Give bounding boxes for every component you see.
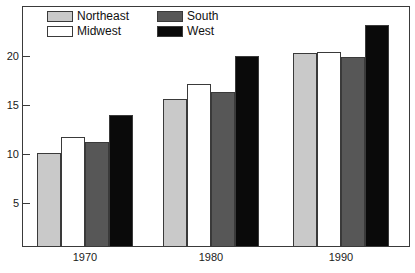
bar-1980-midwest — [187, 84, 211, 247]
bar-1990-west — [365, 25, 389, 247]
legend-label-west: West — [187, 25, 214, 37]
legend-swatch-west-icon — [157, 26, 183, 37]
legend-label-northeast: Northeast — [77, 10, 129, 22]
bar-1970-midwest — [61, 137, 85, 247]
legend-swatch-south-icon — [157, 11, 183, 22]
bar-1980-west — [235, 56, 259, 247]
x-tick-label-1970: 1970 — [55, 251, 115, 263]
legend-label-south: South — [187, 10, 218, 22]
bar-1970-south — [85, 142, 109, 247]
chart-legend: Northeast South Midwest West — [47, 10, 218, 37]
bar-1980-south — [211, 92, 235, 247]
x-tick-label-1980: 1980 — [181, 251, 241, 263]
bars-layer — [0, 0, 415, 273]
legend-swatch-northeast-icon — [47, 11, 73, 22]
bar-chart: 20 15 10 5 1970 1980 1990 — [0, 0, 415, 273]
legend-item-south: South — [157, 10, 218, 22]
legend-label-midwest: Midwest — [77, 25, 121, 37]
bar-1980-northeast — [163, 99, 187, 247]
legend-swatch-midwest-icon — [47, 26, 73, 37]
bar-1990-south — [341, 57, 365, 247]
bar-1990-midwest — [317, 52, 341, 247]
legend-item-northeast: Northeast — [47, 10, 129, 22]
legend-item-midwest: Midwest — [47, 25, 129, 37]
bar-1990-northeast — [293, 53, 317, 247]
bar-1970-northeast — [37, 153, 61, 247]
legend-item-west: West — [157, 25, 218, 37]
bar-1970-west — [109, 115, 133, 247]
x-tick-label-1990: 1990 — [311, 251, 371, 263]
